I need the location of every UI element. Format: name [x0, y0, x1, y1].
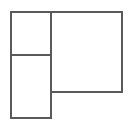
- top-left-rectangle: [11, 12, 51, 55]
- rectangle-partition-svg: [0, 0, 130, 129]
- bottom-left-rectangle: [11, 55, 51, 118]
- diagram-canvas: [0, 0, 130, 129]
- right-rectangle: [51, 12, 122, 92]
